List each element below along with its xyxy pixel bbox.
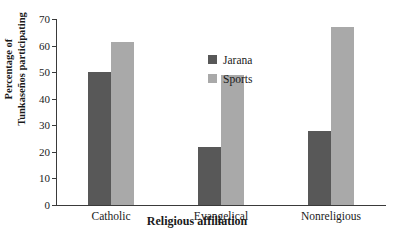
y-tick-mark	[52, 46, 56, 47]
y-axis-title-line-1: Percentage of	[3, 0, 16, 149]
y-tick-mark	[52, 19, 56, 20]
legend-label: Sports	[223, 73, 252, 85]
y-tick-mark	[52, 125, 56, 126]
bar-jarana-evangelical	[198, 147, 221, 205]
legend-swatch-icon-sports	[208, 74, 217, 83]
y-tick-mark	[52, 178, 56, 179]
y-tick-label: 30	[39, 119, 50, 131]
caption-fragment	[0, 0, 394, 2]
legend-item-jarana[interactable]: Jarana	[208, 52, 252, 67]
bar-group-evangelical	[198, 19, 244, 205]
y-tick-mark	[52, 99, 56, 100]
y-axis-line	[56, 19, 57, 206]
y-tick-label: 20	[39, 146, 50, 158]
bar-jarana-nonreligious	[308, 131, 331, 205]
legend-swatch-icon-jarana	[208, 55, 217, 64]
plot-area: 010203040506070 CatholicEvangelicalNonre…	[56, 19, 386, 206]
y-tick-label: 60	[39, 40, 50, 52]
y-tick-label: 10	[39, 172, 50, 184]
y-tick-label: 50	[39, 66, 50, 78]
y-tick-mark	[52, 152, 56, 153]
legend-label: Jarana	[223, 54, 252, 66]
y-tick-mark	[52, 72, 56, 73]
y-axis-title-line-2: Tunkaseños participating	[16, 0, 29, 149]
bar-sports-nonreligious	[331, 27, 354, 205]
bar-jarana-catholic	[88, 72, 111, 205]
chart-legend: JaranaSports	[208, 52, 252, 90]
bar-group-catholic	[88, 19, 134, 205]
bar-sports-evangelical	[221, 75, 244, 205]
y-axis-title: Percentage of Tunkaseños participating	[3, 0, 33, 149]
legend-item-sports[interactable]: Sports	[208, 71, 252, 86]
bar-group-nonreligious	[308, 19, 354, 205]
bar-sports-catholic	[111, 42, 134, 205]
y-tick-label: 70	[39, 13, 50, 25]
y-tick-label: 40	[39, 93, 50, 105]
x-axis-title: Religious affiliation	[0, 214, 394, 229]
x-axis-line	[56, 205, 386, 206]
chart-figure: Percentage of Tunkaseños participating 0…	[0, 0, 394, 232]
y-tick-label: 0	[45, 199, 51, 211]
y-tick-mark	[52, 205, 56, 206]
